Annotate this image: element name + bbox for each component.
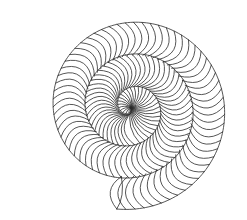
spiral-rib — [191, 124, 223, 137]
spiral-drawing — [0, 0, 247, 220]
spiral-rib — [147, 65, 169, 90]
spiral-rib — [167, 40, 189, 65]
spiral-rib — [160, 166, 178, 195]
spiral-rib — [138, 22, 149, 55]
spiral-rib — [163, 35, 183, 62]
spiral-rib — [117, 24, 129, 56]
spiral-rib — [139, 56, 154, 87]
spiral-rib — [186, 140, 214, 158]
spiral-rib — [171, 159, 192, 185]
spiral-rib — [101, 30, 116, 61]
spiral-rib — [53, 98, 86, 107]
spiral-rib — [143, 23, 156, 55]
spiral-rib — [125, 176, 135, 209]
spiral-rib — [192, 106, 225, 115]
spiral-rib — [133, 22, 142, 55]
spiral-rib — [61, 66, 89, 84]
spiral-rib — [160, 120, 190, 136]
spiral-rib — [150, 69, 174, 91]
spiral-rib — [119, 57, 132, 89]
spiral-rib — [58, 116, 89, 130]
spiral-rib — [156, 86, 186, 102]
spiral-rib — [99, 114, 124, 135]
spiral-rib — [94, 33, 111, 62]
spiral-rib — [182, 65, 211, 83]
spiral-rib — [159, 124, 188, 142]
spiral-rib — [192, 112, 225, 122]
spiral-rib — [154, 80, 183, 98]
spiral-rib — [179, 58, 206, 77]
spiral-rib — [54, 104, 87, 114]
spiral-rib — [65, 60, 92, 80]
spiral-rib — [172, 45, 195, 68]
image-canvas — [0, 0, 247, 220]
spiral-rib — [157, 127, 184, 147]
spiral-rib — [75, 48, 98, 72]
spiral-rib — [53, 92, 86, 103]
spiral-rib — [120, 145, 130, 178]
spiral-rib — [113, 59, 128, 90]
spiral-rib — [155, 130, 179, 152]
spiral-rib — [69, 131, 96, 151]
spiral-rib — [140, 174, 153, 206]
spiral-rib — [126, 145, 136, 178]
spiral-rib — [189, 89, 221, 102]
spiral-rib — [185, 73, 215, 89]
spiral-rib — [192, 118, 224, 130]
spiral-rib — [146, 138, 164, 167]
spiral-rib — [166, 163, 185, 190]
spiral-rib — [56, 79, 87, 93]
spiral-ribs — [53, 22, 224, 209]
